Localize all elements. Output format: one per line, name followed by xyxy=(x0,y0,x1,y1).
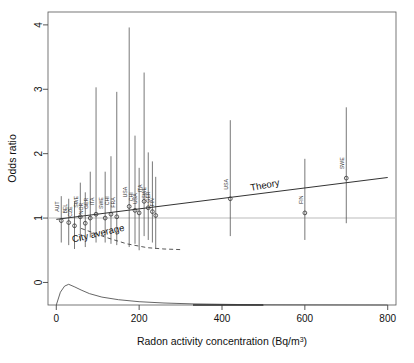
point-label: USA xyxy=(132,193,138,204)
point-label: ITA xyxy=(89,197,95,205)
y-tick-label: 3 xyxy=(34,86,45,92)
density-curve-path xyxy=(56,284,387,305)
annotations: TheoryCity average xyxy=(71,176,281,244)
y-axis-label: Odds ratio xyxy=(6,134,18,183)
y-tick-label: 0 xyxy=(34,279,45,285)
point-label: FIN xyxy=(149,198,155,207)
data-point: FIN xyxy=(149,177,158,249)
x-tick-label: 400 xyxy=(214,313,231,324)
data-points: AUTBELCZESWENORGERITASWECHIFRAUSACHIUSAI… xyxy=(54,27,348,250)
x-tick-label: 0 xyxy=(54,313,60,324)
data-point: SWE xyxy=(339,107,348,223)
y-axis: 01234Odds ratio xyxy=(6,22,48,286)
y-tick-label: 4 xyxy=(34,22,45,28)
chart-canvas: 01234Odds ratio0200400600800Radon activi… xyxy=(0,0,414,363)
x-axis-label: Radon activity concentration (Bq/m3) xyxy=(137,335,307,347)
x-tick-label: 600 xyxy=(297,313,314,324)
annotation-label: Theory xyxy=(249,176,280,192)
point-label: SWE xyxy=(339,157,345,169)
x-axis: 0200400600800Radon activity concentratio… xyxy=(54,305,397,347)
x-tick-label: 200 xyxy=(131,313,148,324)
x-tick-label: 800 xyxy=(379,313,396,324)
data-point: USA xyxy=(223,120,232,236)
y-tick-label: 2 xyxy=(34,150,45,156)
y-tick-label: 1 xyxy=(34,215,45,221)
point-label: USA xyxy=(223,179,229,190)
point-label: FIN xyxy=(298,195,304,204)
chart-figure: 01234Odds ratio0200400600800Radon activi… xyxy=(0,0,414,363)
point-label: FRA xyxy=(110,197,116,208)
density-curve xyxy=(56,284,387,305)
data-point: FIN xyxy=(298,159,307,240)
data-point: USA xyxy=(122,27,131,247)
point-label: AUT xyxy=(54,200,60,211)
